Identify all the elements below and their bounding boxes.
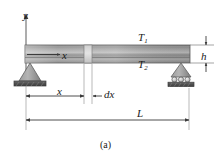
roller-circle xyxy=(178,77,183,82)
roller-circle xyxy=(172,77,177,82)
beam-sheen xyxy=(25,45,190,63)
beam-diagram-svg xyxy=(0,0,221,160)
temperature-top-label: T1 xyxy=(138,32,148,43)
roller-support-triangle xyxy=(171,63,191,77)
dx-dimension-label: dx xyxy=(104,89,114,100)
figure-caption: (a) xyxy=(100,140,111,150)
roller-support-base xyxy=(168,82,194,86)
roller-circle xyxy=(185,77,190,82)
pin-support-base xyxy=(14,81,46,86)
x-dimension-label: x xyxy=(57,86,62,97)
dx-element-rect xyxy=(84,45,92,63)
pin-support-triangle xyxy=(19,63,41,81)
beam-element-dx xyxy=(84,45,92,63)
T2-subscript: 2 xyxy=(144,64,147,71)
right-roller-support xyxy=(168,63,194,87)
beam-body xyxy=(25,45,190,63)
left-pin-support xyxy=(14,63,46,86)
y-axis-label: y xyxy=(23,10,28,21)
beam-height-label: h xyxy=(201,51,207,62)
x-coordinate-label: x xyxy=(62,50,67,61)
span-length-label: L xyxy=(137,108,143,119)
T1-subscript: 1 xyxy=(144,37,147,44)
temperature-bottom-label: T2 xyxy=(138,59,148,70)
figure-container: y x T1 T2 h x dx L (a) xyxy=(0,0,221,160)
